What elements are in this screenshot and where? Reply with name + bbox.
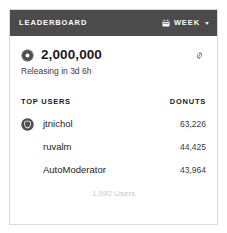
user-identity: jtnichol [21, 118, 73, 131]
card-body: 2,000,000 Releasing in 3d 6h TOP USERS [10, 36, 217, 198]
table-column-headers: TOP USERS DONUTS [21, 98, 206, 106]
donut-icon [21, 49, 34, 62]
user-name: jtnichol [43, 119, 73, 129]
screen-root: LEADERBOARD WEEK [0, 0, 227, 233]
column-header-top-users: TOP USERS [21, 98, 71, 106]
period-label: WEEK [174, 19, 200, 27]
donut-total-value: 2,000,000 [41, 48, 102, 62]
gear-icon [195, 51, 204, 60]
user-name: AutoModerator [43, 165, 106, 175]
column-header-donuts: DONUTS [170, 98, 206, 106]
period-select-week[interactable]: WEEK [161, 17, 210, 29]
user-donut-count: 63,226 [180, 120, 206, 129]
user-identity: ruvalm [21, 142, 72, 152]
donut-counter-value-group: 2,000,000 [21, 48, 102, 62]
donut-counter-block: 2,000,000 Releasing in 3d 6h [21, 36, 206, 76]
page-title: LEADERBOARD [19, 19, 87, 27]
chevron-down-icon [205, 22, 209, 25]
table-row[interactable]: ruvalm 44,425 [21, 136, 206, 159]
calendar-icon [162, 19, 170, 27]
user-donut-count: 43,964 [180, 166, 206, 175]
table-row[interactable]: AutoModerator 43,964 [21, 159, 206, 182]
user-identity: AutoModerator [21, 165, 106, 175]
top-users-list: jtnichol 63,226 ruvalm 44,425 AutoModera… [21, 113, 206, 182]
card-header: LEADERBOARD WEEK [10, 10, 217, 36]
shield-avatar-icon [21, 118, 34, 131]
leaderboard-card: LEADERBOARD WEEK [9, 9, 218, 225]
table-row[interactable]: jtnichol 63,226 [21, 113, 206, 136]
avatar [21, 118, 43, 131]
settings-button[interactable] [192, 48, 206, 62]
user-donut-count: 44,425 [180, 143, 206, 152]
total-users-label: 1,992 Users [21, 190, 206, 198]
release-countdown-text: Releasing in 3d 6h [21, 66, 206, 76]
user-name: ruvalm [43, 142, 72, 152]
donut-counter-row: 2,000,000 [21, 48, 206, 62]
